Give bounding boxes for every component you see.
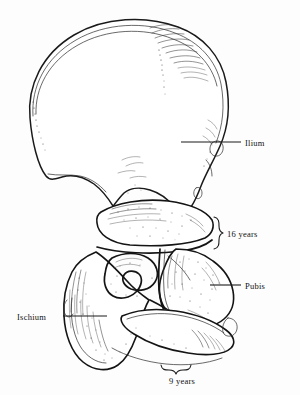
bone-illustration-svg: Ilium Pubis Ischium 16 years 9 years bbox=[0, 0, 300, 395]
acetabular-roof-region bbox=[97, 200, 213, 253]
fusion-9-years-label: 9 years bbox=[169, 376, 195, 386]
brace-9-years bbox=[161, 365, 191, 374]
pubis-label: Pubis bbox=[245, 281, 265, 291]
anatomical-figure: Ilium Pubis Ischium 16 years 9 years bbox=[0, 0, 300, 395]
ilium-outline bbox=[30, 19, 229, 207]
ischium-label: Ischium bbox=[17, 312, 46, 322]
annotation-fusion-16-years: 16 years bbox=[214, 217, 258, 249]
annotation-fusion-9-years: 9 years bbox=[161, 365, 195, 386]
fusion-16-years-label: 16 years bbox=[227, 229, 258, 239]
ilium-region bbox=[30, 19, 229, 207]
ilium-label: Ilium bbox=[245, 138, 265, 148]
brace-16-years bbox=[214, 217, 223, 249]
